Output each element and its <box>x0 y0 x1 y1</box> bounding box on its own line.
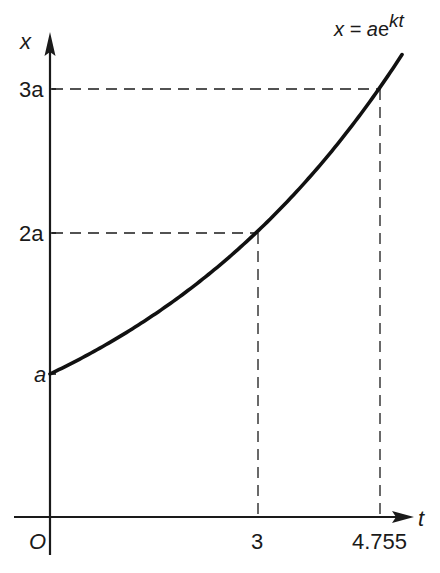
t-axis-label: t <box>418 506 425 531</box>
exponential-growth-chart: x t O 3a 2a a 3 4.755 x = aekt <box>0 0 440 573</box>
x-tick-labels: 3 4.755 <box>251 529 407 554</box>
tick-label-a: a <box>34 362 46 387</box>
tick-label-3a: 3a <box>19 77 44 102</box>
y-tick-labels: 3a 2a a <box>19 77 46 387</box>
tick-label-2a: 2a <box>19 221 44 246</box>
exponential-curve <box>50 301 258 374</box>
axes <box>14 32 414 555</box>
tick-label-3: 3 <box>251 529 263 554</box>
curve-line <box>50 55 402 374</box>
tick-label-4755: 4.755 <box>352 529 407 554</box>
y-axis-label: x <box>19 29 32 54</box>
origin-label: O <box>29 529 46 554</box>
equation-label: x = aekt <box>333 10 405 40</box>
